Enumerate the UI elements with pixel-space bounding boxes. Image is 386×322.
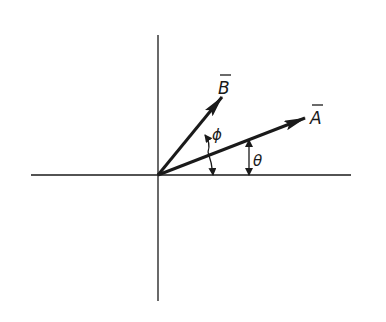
vector-b-label: B: [218, 75, 231, 98]
vector-diagram: A B θ ϕ: [0, 0, 386, 322]
svg-text:B: B: [218, 78, 230, 98]
theta-label: θ: [253, 152, 262, 170]
diagram-svg: A B θ ϕ: [0, 0, 386, 322]
phi-label: ϕ: [212, 126, 222, 144]
vector-a-label: A: [309, 105, 323, 128]
svg-text:A: A: [309, 108, 322, 128]
